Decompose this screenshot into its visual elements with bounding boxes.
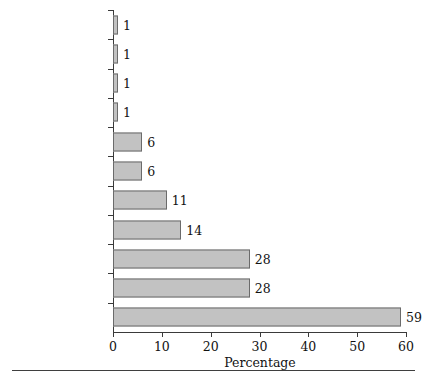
bar <box>113 15 118 34</box>
bar <box>113 74 118 93</box>
bar-value-label: 1 <box>123 105 131 120</box>
chart-category-row: Children59 <box>113 303 406 332</box>
chart-category-row: Heterosexual11 <box>113 186 406 215</box>
y-axis-tick <box>108 10 113 11</box>
bar <box>113 279 250 298</box>
bar-chart-figure: Pets or Third Party1Single Parents1Anti-… <box>0 0 428 384</box>
bar <box>113 132 142 151</box>
x-axis-tick <box>308 332 309 337</box>
chart-category-row: Instrumental14 <box>113 215 406 244</box>
y-axis-tick <box>108 39 113 40</box>
y-axis-tick <box>108 127 113 128</box>
plot-area: Pets or Third Party1Single Parents1Anti-… <box>113 10 406 332</box>
chart-category-row: Religion1 <box>113 98 406 127</box>
x-axis-tick-label: 40 <box>300 339 316 354</box>
chart-category-row: Anti-Homosexual1 <box>113 69 406 98</box>
bar-value-label: 28 <box>255 251 271 266</box>
x-axis-tick <box>162 332 163 337</box>
chart-category-row: Marriage28 <box>113 273 406 302</box>
bar <box>113 220 181 239</box>
bar-value-label: 1 <box>123 46 131 61</box>
y-axis-tick <box>108 98 113 99</box>
chart-category-row: Expressive28 <box>113 244 406 273</box>
x-axis-tick <box>211 332 212 337</box>
y-axis-tick <box>108 244 113 245</box>
bar-value-label: 28 <box>255 281 271 296</box>
x-axis-tick <box>260 332 261 337</box>
y-axis-tick <box>108 186 113 187</box>
bar <box>113 161 142 180</box>
chart-category-row: Nuclear Family6 <box>113 156 406 185</box>
x-axis-tick <box>113 332 114 337</box>
chart-category-row: Pets or Third Party1 <box>113 10 406 39</box>
y-axis-tick <box>108 156 113 157</box>
chart-category-row: Single Parents1 <box>113 39 406 68</box>
x-axis-tick <box>357 332 358 337</box>
bar-value-label: 1 <box>123 17 131 32</box>
y-axis-tick <box>108 303 113 304</box>
y-axis-tick <box>108 69 113 70</box>
x-axis-tick-label: 50 <box>349 339 365 354</box>
bar-value-label: 6 <box>147 134 155 149</box>
bar-value-label: 14 <box>186 222 202 237</box>
x-axis-tick-label: 20 <box>203 339 219 354</box>
bar <box>113 308 401 327</box>
x-axis-tick <box>406 332 407 337</box>
y-axis-tick <box>108 273 113 274</box>
x-axis-title: Percentage <box>113 355 407 370</box>
x-axis-tick-label: 10 <box>154 339 170 354</box>
bar <box>113 44 118 63</box>
x-axis-tick-label: 60 <box>398 339 414 354</box>
bar-value-label: 59 <box>406 310 422 325</box>
bottom-divider-rule <box>12 370 415 371</box>
y-axis-tick <box>108 215 113 216</box>
bar-value-label: 11 <box>172 193 188 208</box>
x-axis-tick-label: 30 <box>252 339 268 354</box>
bar-value-label: 1 <box>123 76 131 91</box>
bar-value-label: 6 <box>147 163 155 178</box>
x-axis-tick-label: 0 <box>109 339 117 354</box>
bar <box>113 249 250 268</box>
bar <box>113 103 118 122</box>
chart-category-row: Biological Ties6 <box>113 127 406 156</box>
bar <box>113 191 167 210</box>
